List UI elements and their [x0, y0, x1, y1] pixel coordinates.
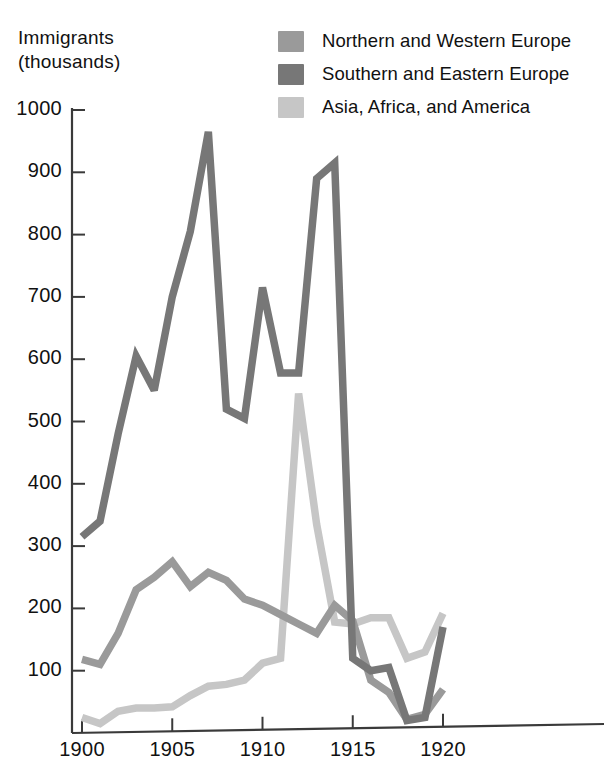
x-axis-line [72, 724, 604, 733]
immigration-line-chart: Immigrants (thousands) Northern and West… [0, 0, 610, 770]
series-line-northern-and-western-europe [82, 562, 443, 720]
plot-area [0, 0, 610, 770]
series-line-southern-and-eastern-europe [82, 132, 443, 721]
